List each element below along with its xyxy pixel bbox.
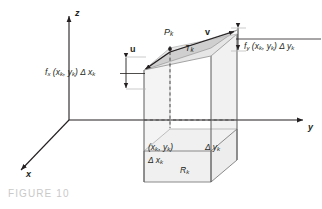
- fx-delta-sub: k: [92, 70, 95, 77]
- delta-y-sym: Δ y: [205, 142, 217, 152]
- fy-args-open: (x: [252, 41, 259, 51]
- vector-u-label: u: [130, 45, 136, 54]
- y-axis-label: y: [308, 123, 313, 132]
- point-xy-close: ): [170, 142, 173, 152]
- fx-args-mid: , y: [63, 67, 72, 77]
- point-tk-label: Tk: [185, 44, 194, 54]
- measure-fx-guides: [126, 57, 146, 89]
- delta-y-sub: k: [217, 145, 220, 152]
- figure-container: z y x u v Pk Tk fx (xk, yk) Δ xk fy (xk,…: [0, 0, 322, 209]
- fx-delta: Δ x: [80, 67, 92, 77]
- delta-x-sub: k: [160, 158, 163, 165]
- region-sub: k: [186, 168, 189, 175]
- fy-delta-sub: k: [291, 44, 294, 51]
- vector-v-label: v: [205, 28, 210, 37]
- label-delta-y: Δ yk: [205, 143, 220, 152]
- label-point-xy: (xk, yk): [148, 143, 173, 152]
- point-pk-label: Pk: [164, 28, 173, 38]
- fy-args-mid: , y: [262, 41, 271, 51]
- point-tk-subscript: k: [191, 46, 194, 53]
- point-pk-dot: [168, 47, 172, 51]
- diagram-canvas: [0, 0, 322, 209]
- point-pk-subscript: k: [170, 30, 173, 37]
- z-axis-label: z: [75, 9, 80, 18]
- x-axis-label: x: [26, 170, 31, 179]
- fy-delta: Δ y: [279, 41, 291, 51]
- point-xy-mid: , y: [158, 142, 167, 152]
- label-region-rk: Rk: [180, 166, 189, 175]
- label-fy-dy: fy (xk, yk) Δ yk: [244, 42, 294, 51]
- label-delta-x: Δ xk: [148, 156, 163, 165]
- measure-fx-bracket: [120, 58, 145, 88]
- x-axis: [21, 120, 69, 170]
- label-fx-dx: fx (xk, yk) Δ xk: [45, 68, 95, 77]
- figure-caption: FIGURE 10: [8, 188, 70, 199]
- delta-x-sym: Δ x: [148, 155, 160, 165]
- fx-args-open: (x: [53, 67, 60, 77]
